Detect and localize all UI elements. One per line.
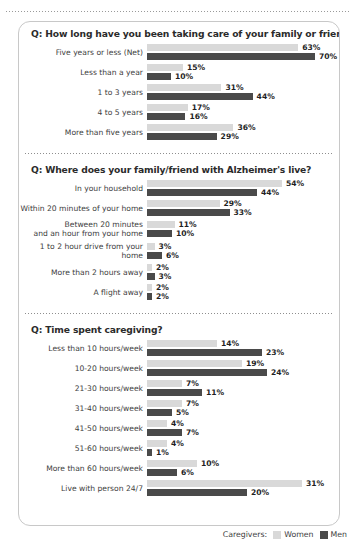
bar-value-women: 2% — [156, 283, 169, 292]
bar-women — [147, 420, 167, 427]
bar-value-women: 3% — [159, 242, 172, 251]
row-bars: 2%2% — [147, 284, 339, 300]
legend-swatch-women-icon — [273, 531, 281, 539]
row-label: In your household — [19, 184, 147, 193]
bar-value-men: 44% — [257, 92, 275, 101]
legend-label-women: Women — [284, 530, 313, 539]
legend-label-men: Men — [331, 530, 347, 539]
bar-men — [147, 409, 172, 416]
row-bars: 15%10% — [147, 64, 339, 80]
bar-value-men: 5% — [176, 408, 189, 417]
row-bars: 63%70% — [147, 44, 339, 60]
row-label: Less than a year — [19, 68, 147, 77]
bar-value-women: 7% — [186, 379, 199, 388]
bar-line-men: 16% — [147, 113, 339, 120]
bar-men — [147, 449, 152, 456]
chart-row: 21-30 hours/week7%11% — [19, 380, 339, 396]
bar-women — [147, 84, 221, 91]
question-text: : Time spent caregiving? — [39, 324, 163, 335]
bar-women — [147, 124, 233, 131]
survey-section: Q: Time spent caregiving?Less than 10 ho… — [19, 318, 339, 504]
bar-value-men: 44% — [261, 188, 279, 197]
row-bars: 17%16% — [147, 104, 339, 120]
bar-value-women: 14% — [221, 339, 239, 348]
bar-women — [147, 200, 220, 207]
question-rows: In your household54%44%Within 20 minutes… — [19, 180, 339, 308]
question-rows: Less than 10 hours/week14%23%10-20 hours… — [19, 340, 339, 504]
bar-women — [147, 340, 217, 347]
bar-line-women: 4% — [147, 420, 339, 427]
bar-line-women: 15% — [147, 64, 339, 71]
row-bars: 19%24% — [147, 360, 339, 376]
bar-men — [147, 113, 185, 120]
survey-results-card: Q: How long have you been taking care of… — [18, 21, 340, 526]
bar-value-women: 19% — [246, 359, 264, 368]
bar-line-men: 10% — [147, 73, 339, 80]
question-rows: Five years or less (Net)63%70%Less than … — [19, 44, 339, 148]
bar-value-women: 17% — [192, 103, 210, 112]
row-label: More than five years — [19, 128, 147, 137]
bar-men — [147, 293, 152, 300]
bar-men — [147, 429, 182, 436]
bar-men — [147, 349, 262, 356]
bar-men — [147, 489, 247, 496]
bar-value-men: 11% — [206, 388, 224, 397]
bar-women — [147, 64, 183, 71]
question-heading: Q: Time spent caregiving? — [19, 318, 339, 340]
legend-item-women: Women — [273, 530, 313, 539]
question-heading: Q: How long have you been taking care of… — [19, 22, 339, 44]
row-bars: 3%6% — [147, 243, 339, 259]
chart-legend: Caregivers: Women Men — [0, 530, 347, 539]
row-bars: 29%33% — [147, 200, 339, 216]
row-bars: 11%10% — [147, 221, 339, 237]
question-text: : Where does your family/friend with Alz… — [39, 164, 312, 175]
bar-value-women: 29% — [224, 199, 242, 208]
row-label: 31-40 hours/week — [19, 404, 147, 413]
bar-line-women: 3% — [147, 243, 339, 250]
row-label: 10-20 hours/week — [19, 364, 147, 373]
bar-line-men: 44% — [147, 93, 339, 100]
bar-women — [147, 180, 282, 187]
bar-line-women: 4% — [147, 440, 339, 447]
chart-row: More than 2 hours away2%3% — [19, 264, 339, 280]
bar-women — [147, 380, 182, 387]
bar-value-men: 23% — [266, 348, 284, 357]
row-bars: 2%3% — [147, 264, 339, 280]
bar-value-women: 4% — [171, 419, 184, 428]
top-divider — [6, 11, 351, 12]
bar-line-men: 10% — [147, 230, 339, 237]
bar-men — [147, 273, 155, 280]
question-text: : How long have you been taking care of … — [39, 28, 340, 39]
bar-line-women: 36% — [147, 124, 339, 131]
chart-row: Five years or less (Net)63%70% — [19, 44, 339, 60]
bar-value-women: 7% — [186, 399, 199, 408]
bar-line-women: 31% — [147, 84, 339, 91]
bar-line-women: 17% — [147, 104, 339, 111]
bar-line-women: 11% — [147, 221, 339, 228]
bar-line-men: 44% — [147, 189, 339, 196]
chart-row: Live with person 24/731%20% — [19, 480, 339, 496]
bar-women — [147, 44, 298, 51]
section-divider — [25, 153, 333, 154]
row-label: 41-50 hours/week — [19, 424, 147, 433]
bar-value-women: 4% — [171, 439, 184, 448]
bar-men — [147, 469, 177, 476]
bar-value-women: 63% — [302, 43, 320, 52]
row-label: 21-30 hours/week — [19, 384, 147, 393]
bar-men — [147, 389, 202, 396]
bar-line-men: 70% — [147, 53, 339, 60]
bar-line-men: 1% — [147, 449, 339, 456]
bar-men — [147, 252, 162, 259]
bar-line-men: 29% — [147, 133, 339, 140]
row-label: 1 to 3 years — [19, 88, 147, 97]
row-label: 1 to 2 hour drive from your home — [19, 242, 147, 260]
bar-women — [147, 284, 152, 291]
bar-women — [147, 264, 152, 271]
bar-women — [147, 243, 155, 250]
bar-value-women: 54% — [286, 179, 304, 188]
bar-value-men: 70% — [319, 52, 337, 61]
bar-line-men: 20% — [147, 489, 339, 496]
bar-women — [147, 400, 182, 407]
bar-value-women: 2% — [156, 263, 169, 272]
chart-row: 1 to 2 hour drive from your home3%6% — [19, 242, 339, 260]
